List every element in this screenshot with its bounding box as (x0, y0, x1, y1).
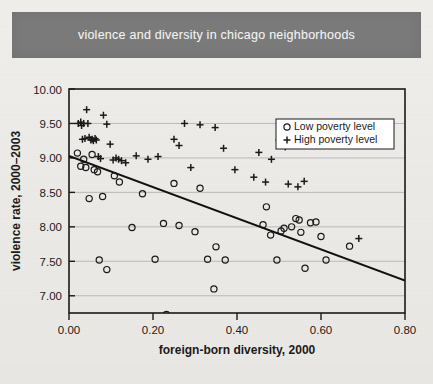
data-point-circle (213, 244, 219, 250)
legend-label: High poverty level (294, 133, 377, 145)
data-point-plus (212, 124, 219, 131)
data-point-circle (89, 151, 95, 157)
data-point-plus (294, 183, 301, 190)
series-circle (74, 150, 352, 317)
data-point-circle (323, 257, 329, 263)
data-point-plus (176, 142, 183, 149)
data-point-circle (211, 286, 217, 292)
data-point-plus (155, 153, 162, 160)
data-point-circle (100, 193, 106, 199)
data-point-circle (274, 257, 280, 263)
data-point-circle (197, 185, 203, 191)
data-point-circle (263, 204, 269, 210)
data-point-plus (231, 166, 238, 173)
y-tick-label: 7.00 (40, 290, 62, 302)
data-point-plus (220, 145, 227, 152)
data-point-circle (104, 266, 110, 272)
data-point-plus (355, 235, 362, 242)
data-point-circle (129, 224, 135, 230)
data-point-plus (181, 120, 188, 127)
data-point-plus (100, 112, 107, 119)
data-point-plus (250, 174, 257, 181)
data-point-circle (346, 243, 352, 249)
x-tick-label: 0.60 (310, 324, 332, 336)
data-point-plus (262, 179, 269, 186)
data-point-plus (268, 156, 275, 163)
x-tick-label: 0.00 (58, 324, 80, 336)
y-tick-label: 9.50 (40, 118, 62, 130)
data-point-circle (74, 150, 80, 156)
legend: Low poverty levelHigh poverty level (276, 119, 394, 149)
data-point-plus (255, 149, 262, 156)
data-point-circle (298, 229, 304, 235)
data-point-plus (171, 136, 178, 143)
x-tick-label: 0.20 (142, 324, 164, 336)
data-point-circle (222, 257, 228, 263)
data-point-plus (84, 120, 91, 127)
x-tick-label: 0.40 (226, 324, 248, 336)
data-point-circle (318, 233, 324, 239)
data-point-circle (268, 232, 274, 238)
data-point-circle (86, 195, 92, 201)
data-point-circle (192, 229, 198, 235)
chart-title-banner: violence and diversity in chicago neighb… (12, 12, 421, 58)
data-point-plus (301, 178, 308, 185)
scatter-chart: 7.007.508.008.509.009.5010.000.000.200.4… (0, 62, 433, 384)
y-tick-label: 8.50 (40, 187, 62, 199)
data-point-circle (176, 222, 182, 228)
data-point-plus (197, 121, 204, 128)
data-point-circle (160, 220, 166, 226)
data-point-circle (116, 179, 122, 185)
data-point-circle (171, 180, 177, 186)
data-point-plus (103, 121, 110, 128)
chart-canvas: 7.007.508.008.509.009.5010.000.000.200.4… (0, 62, 433, 384)
data-point-plus (144, 156, 151, 163)
chart-title: violence and diversity in chicago neighb… (78, 28, 355, 42)
regression-line (69, 156, 405, 281)
y-tick-label: 7.50 (40, 256, 62, 268)
x-axis: 0.000.200.400.600.80 (58, 313, 416, 336)
data-point-plus (285, 181, 292, 188)
legend-label: Low poverty level (294, 120, 375, 132)
data-point-circle (96, 257, 102, 263)
data-point-plus (107, 141, 114, 148)
y-axis-label: violence rate, 2000–2003 (9, 131, 23, 271)
data-point-plus (83, 106, 90, 113)
data-point-plus (187, 164, 194, 171)
data-point-circle (302, 265, 308, 271)
y-tick-label: 10.00 (33, 84, 62, 96)
x-axis-label: foreign-born diversity, 2000 (159, 343, 316, 357)
x-tick-label: 0.80 (394, 324, 416, 336)
y-tick-label: 9.00 (40, 152, 62, 164)
y-tick-label: 8.00 (40, 221, 62, 233)
data-point-circle (139, 191, 145, 197)
